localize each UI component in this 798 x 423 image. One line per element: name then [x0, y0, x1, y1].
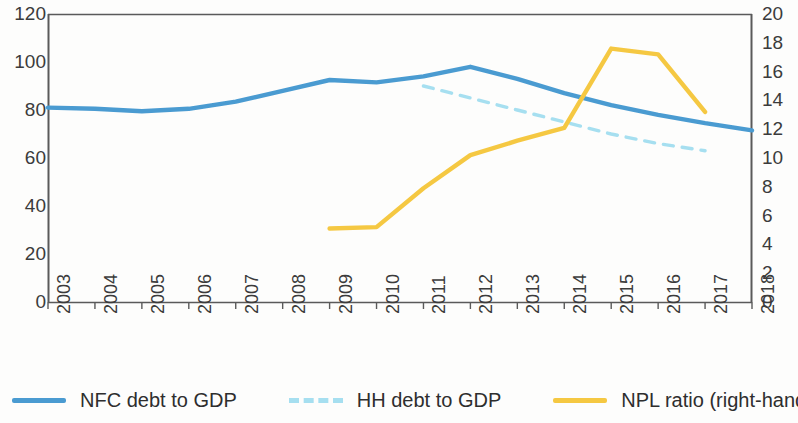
legend-swatch-icon-hh [289, 398, 343, 403]
x-axis-label-2012: 2012 [477, 274, 495, 314]
x-axis-label-2018: 2018 [759, 274, 777, 314]
series-line-nfc-debt-to-gdp [48, 67, 752, 131]
plot-frame [48, 14, 752, 303]
x-axis-label-2015: 2015 [618, 274, 636, 314]
y-axis-left-tick-0: 0 [35, 292, 46, 311]
y-axis-left-tick-120: 120 [14, 4, 46, 23]
x-axis-label-2008: 2008 [290, 274, 308, 314]
y-axis-left-tick-20: 20 [25, 244, 46, 263]
y-axis-right-tick-14: 14 [762, 90, 783, 109]
y-axis-right-tick-12: 12 [762, 119, 783, 138]
x-axis-label-2006: 2006 [196, 274, 214, 314]
y-axis-right-tick-18: 18 [762, 33, 783, 52]
chart-figure: 120100806040200 20181614121086420 200320… [0, 0, 798, 423]
legend-swatch-icon-npl [553, 398, 607, 403]
x-axis-label-2016: 2016 [665, 274, 683, 314]
y-axis-right-tick-6: 6 [762, 206, 773, 225]
legend-item-hh-debt-to-gdp[interactable]: HH debt to GDP [289, 389, 502, 412]
y-axis-right-tick-20: 20 [762, 4, 783, 23]
y-axis-right-tick-10: 10 [762, 148, 783, 167]
y-axis-left-tick-100: 100 [14, 52, 46, 71]
legend-swatch-icon-nfc [12, 398, 66, 403]
y-axis-left-tick-40: 40 [25, 196, 46, 215]
x-axis-label-2004: 2004 [102, 274, 120, 314]
series-line-npl-ratio-right-hand-side [330, 49, 705, 229]
chart-plot-area: 120100806040200 20181614121086420 200320… [0, 0, 798, 375]
legend-label-nfc: NFC debt to GDP [80, 389, 237, 412]
chart-svg [0, 0, 798, 375]
y-axis-right-tick-16: 16 [762, 62, 783, 81]
x-axis-label-2005: 2005 [149, 274, 167, 314]
legend-label-npl: NPL ratio (right-hand side) [621, 389, 798, 412]
y-axis-right-tick-4: 4 [762, 234, 773, 253]
x-axis-label-2013: 2013 [524, 274, 542, 314]
legend-item-npl-ratio[interactable]: NPL ratio (right-hand side) [553, 389, 798, 412]
x-axis-label-2011: 2011 [430, 275, 448, 314]
x-axis-label-2003: 2003 [55, 274, 73, 314]
series-line-hh-debt-to-gdp [423, 86, 705, 151]
x-axis-label-2007: 2007 [243, 274, 261, 314]
x-axis-label-2010: 2010 [384, 274, 402, 314]
legend-item-nfc-debt-to-gdp[interactable]: NFC debt to GDP [12, 389, 237, 412]
chart-series-layer [48, 49, 752, 229]
x-axis-label-2009: 2009 [337, 274, 355, 314]
x-axis-label-2014: 2014 [571, 274, 589, 314]
y-axis-right-tick-8: 8 [762, 177, 773, 196]
x-axis-label-2017: 2017 [712, 274, 730, 314]
y-axis-left-tick-60: 60 [25, 148, 46, 167]
chart-legend: NFC debt to GDP HH debt to GDP NPL ratio… [0, 378, 798, 423]
legend-label-hh: HH debt to GDP [357, 389, 502, 412]
y-axis-left-tick-80: 80 [25, 100, 46, 119]
